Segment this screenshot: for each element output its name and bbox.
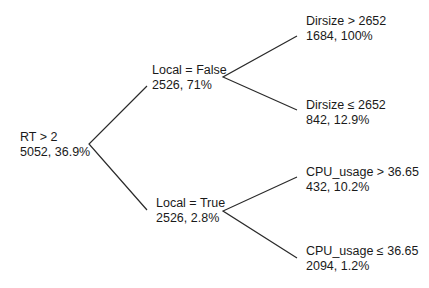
leaf-cpu-gt: CPU_usage > 36.65 432, 10.2%: [306, 165, 419, 195]
leaf-cpu-le: CPU_usage ≤ 36.65 2094, 1.2%: [306, 244, 419, 274]
leaf-dirsize-gt: Dirsize > 2652 1684, 100%: [306, 14, 386, 44]
edge-local-false: [223, 36, 297, 110]
root-stats: 5052, 36.9%: [20, 145, 90, 160]
node-condition: Local = False: [152, 63, 227, 78]
leaf-condition: Dirsize ≤ 2652: [306, 98, 386, 113]
edge-root: [89, 86, 147, 210]
node-local-false: Local = False 2526, 71%: [152, 63, 227, 93]
leaf-condition: CPU_usage ≤ 36.65: [306, 244, 419, 259]
root-node: RT > 2 5052, 36.9%: [20, 130, 90, 160]
leaf-stats: 842, 12.9%: [306, 113, 386, 128]
leaf-condition: Dirsize > 2652: [306, 14, 386, 29]
leaf-stats: 432, 10.2%: [306, 180, 419, 195]
edge-local-true: [223, 177, 297, 258]
node-stats: 2526, 71%: [152, 78, 227, 93]
node-condition: Local = True: [156, 196, 225, 211]
leaf-condition: CPU_usage > 36.65: [306, 165, 419, 180]
leaf-stats: 1684, 100%: [306, 29, 386, 44]
leaf-dirsize-le: Dirsize ≤ 2652 842, 12.9%: [306, 98, 386, 128]
leaf-stats: 2094, 1.2%: [306, 259, 419, 274]
node-stats: 2526, 2.8%: [156, 211, 225, 226]
root-condition: RT > 2: [20, 130, 90, 145]
node-local-true: Local = True 2526, 2.8%: [156, 196, 225, 226]
